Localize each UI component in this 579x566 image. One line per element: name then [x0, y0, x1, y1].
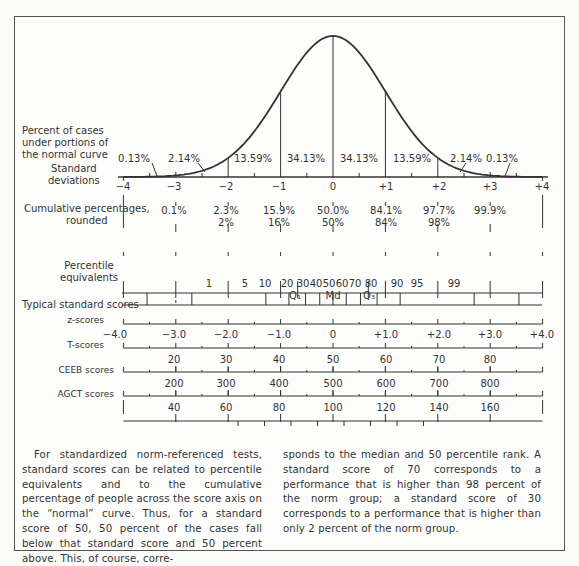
area-percent: 13.59%: [393, 153, 431, 164]
agct-label: 160: [480, 402, 499, 413]
z-label: −3.0: [162, 329, 186, 340]
label-standard-deviations: Standard deviations: [48, 163, 100, 187]
percentile-label: 30: [297, 278, 310, 289]
leader-line: [505, 163, 510, 176]
cumulative-exact: 2.3%: [213, 205, 238, 216]
cumulative-rounded: 16%: [268, 217, 290, 228]
percentile-label: 70: [349, 278, 362, 289]
percentile-label: 60: [336, 278, 349, 289]
sd-label: +4: [535, 181, 550, 192]
percentile-label: 1: [206, 278, 212, 289]
label-cumulative-percentages: Cumulative percentages, rounded: [24, 203, 150, 227]
t-label: 70: [433, 354, 446, 365]
z-label: +4.0: [530, 329, 554, 340]
label-percent-of-cases: Percent of cases under portions of the n…: [22, 125, 108, 161]
caption-left-column: For standardized norm-referenced tests, …: [22, 448, 262, 566]
cumulative-exact: 15.9%: [263, 205, 295, 216]
agct-label: 80: [273, 402, 286, 413]
agct-label: 140: [429, 402, 448, 413]
sd-label: +1: [379, 181, 394, 192]
label-typical-standard-scores: Typical standard scores: [22, 299, 139, 310]
t-label: 80: [484, 354, 497, 365]
t-label: 40: [273, 354, 286, 365]
cumulative-rounded: 84%: [375, 217, 397, 228]
cumulative-exact: 0.1%: [161, 205, 186, 216]
ceeb-label: 600: [376, 378, 395, 389]
area-percent: 13.59%: [234, 153, 272, 164]
agct-label: 120: [376, 402, 395, 413]
agct-label: 60: [220, 402, 233, 413]
cumulative-rounded: 98%: [428, 217, 450, 228]
z-label: −1.0: [267, 329, 291, 340]
agct-label: 40: [168, 402, 181, 413]
label-percentile-equivalents: Percentile equivalents: [60, 260, 118, 284]
label-t-scores: T-scores: [42, 340, 104, 351]
z-label: −2.0: [214, 329, 238, 340]
sd-label: −4: [116, 181, 131, 192]
leader-line: [152, 163, 157, 176]
percentile-label: 80: [365, 278, 378, 289]
caption-paragraph-right: sponds to the median and 50 percentile r…: [283, 448, 541, 537]
median-label: Md: [326, 290, 341, 301]
z-label: +2.0: [427, 329, 451, 340]
area-percent: 34.13%: [287, 153, 325, 164]
percentile-label: 20: [281, 278, 294, 289]
sd-label: 0: [330, 181, 336, 192]
quartile-q1-label: Q₁: [289, 290, 301, 301]
area-percent: 2.14%: [168, 153, 200, 164]
sd-label: −3: [167, 181, 182, 192]
area-percent: 2.14%: [450, 153, 482, 164]
area-percent: 34.13%: [340, 153, 378, 164]
z-label: +3.0: [478, 329, 502, 340]
t-label: 50: [327, 354, 340, 365]
cumulative-exact: 50.0%: [317, 205, 349, 216]
sd-label: −2: [219, 181, 234, 192]
percentile-label: 99: [448, 278, 461, 289]
sd-label: −1: [272, 181, 287, 192]
caption-paragraph-left: For standardized norm-referenced tests, …: [22, 448, 262, 566]
ceeb-label: 400: [269, 378, 288, 389]
ceeb-label: 500: [323, 378, 342, 389]
t-label: 30: [220, 354, 233, 365]
percentile-label: 90: [391, 278, 404, 289]
sd-label: +3: [483, 181, 498, 192]
label-agct-scores: AGCT scores: [22, 389, 114, 400]
agct-label: 100: [323, 402, 342, 413]
percentile-label: 40: [310, 278, 323, 289]
ceeb-label: 300: [216, 378, 235, 389]
area-percent: 0.13%: [486, 153, 518, 164]
ceeb-label: 200: [164, 378, 183, 389]
cumulative-exact: 97.7%: [423, 205, 455, 216]
cumulative-rounded: 50%: [322, 217, 344, 228]
label-ceeb-scores: CEEB scores: [22, 365, 114, 376]
label-z-scores: z-scores: [42, 315, 104, 326]
cumulative-rounded: 2%: [218, 217, 234, 228]
t-label: 20: [168, 354, 181, 365]
percentile-label: 95: [411, 278, 424, 289]
quartile-q3-label: Q₃: [363, 290, 375, 301]
percentile-label: 50: [323, 278, 336, 289]
ceeb-label: 700: [429, 378, 448, 389]
percentile-label: 5: [242, 278, 248, 289]
z-label: −4.0: [103, 329, 127, 340]
area-percent: 0.13%: [118, 153, 150, 164]
z-label: +1.0: [374, 329, 398, 340]
cumulative-exact: 99.9%: [474, 205, 506, 216]
z-label: 0: [330, 329, 336, 340]
cumulative-exact: 84.1%: [370, 205, 402, 216]
t-label: 60: [380, 354, 393, 365]
caption-right-column: sponds to the median and 50 percentile r…: [283, 448, 541, 537]
ceeb-label: 800: [480, 378, 499, 389]
sd-label: +2: [432, 181, 447, 192]
percentile-label: 10: [259, 278, 272, 289]
